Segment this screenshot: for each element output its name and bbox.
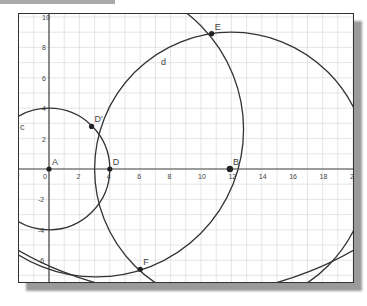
point-label: E [215,22,221,32]
y-tick-label: 10 [42,14,50,21]
point-label: A [52,157,58,167]
points[interactable]: ADD'BEF [46,22,238,272]
y-tick-label: -4 [38,227,44,234]
point-marker[interactable] [46,166,51,171]
x-tick-label: 0 [43,173,47,180]
curve-label-c: c [20,122,25,132]
curves[interactable] [19,14,354,283]
point-label: B [233,157,239,167]
curve-label-d: d [161,57,166,67]
point-marker[interactable] [138,267,143,272]
x-tick-label: 18 [320,173,328,180]
geometry-canvas[interactable]: 202468101214161820108642-2-4-6 ADD'BEF c… [19,14,354,283]
y-tick-label: 6 [42,75,46,82]
circle-unnamed[interactable] [19,14,244,277]
point-E[interactable]: E [209,22,221,37]
point-marker[interactable] [209,31,214,36]
x-tick-label: 6 [137,173,141,180]
point-label: F [143,257,149,267]
y-tick-label: -2 [38,196,44,203]
axes [19,14,354,283]
x-tick-label: 16 [289,173,297,180]
y-tick-label: 2 [42,136,46,143]
grid-lines [19,14,354,283]
point-label: D' [95,114,103,124]
point-B[interactable]: B [227,157,239,172]
graphics-view[interactable]: 202468101214161820108642-2-4-6 ADD'BEF c… [18,13,354,283]
point-marker[interactable] [107,166,112,171]
x-tick-label: 2 [76,173,80,180]
x-tick-label: 10 [198,173,206,180]
x-tick-label: 8 [168,173,172,180]
y-tick-label: 8 [42,44,46,51]
point-label: D [113,157,120,167]
point-marker[interactable] [89,124,94,129]
x-tick-label: 2 [19,173,20,180]
circle-unnamed[interactable] [19,14,354,283]
x-tick-label: 20 [350,173,354,180]
top-gray-bar [0,0,115,4]
x-tick-label: 14 [259,173,267,180]
